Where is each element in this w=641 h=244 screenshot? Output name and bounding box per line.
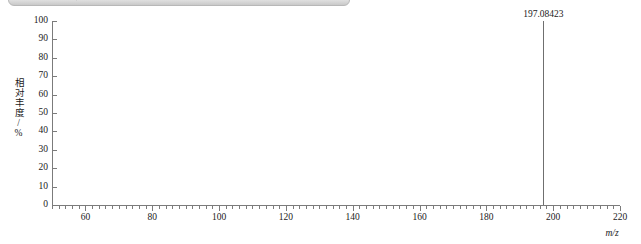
y-tick-30 bbox=[53, 150, 57, 151]
x-minor-tick-112 bbox=[259, 206, 260, 209]
x-minor-tick-196 bbox=[540, 206, 541, 209]
x-minor-tick-202 bbox=[560, 206, 561, 209]
x-minor-tick-176 bbox=[473, 206, 474, 209]
x-minor-tick-216 bbox=[607, 206, 608, 209]
x-minor-tick-212 bbox=[593, 206, 594, 209]
x-minor-tick-98 bbox=[212, 206, 213, 209]
x-minor-tick-162 bbox=[426, 206, 427, 209]
x-minor-tick-64 bbox=[99, 206, 100, 209]
x-minor-tick-186 bbox=[506, 206, 507, 209]
x-minor-tick-206 bbox=[573, 206, 574, 209]
x-minor-tick-90 bbox=[186, 206, 187, 209]
x-minor-tick-172 bbox=[460, 206, 461, 209]
x-minor-tick-144 bbox=[366, 206, 367, 209]
y-tick-label-30: 30 bbox=[20, 145, 48, 155]
x-minor-tick-102 bbox=[226, 206, 227, 209]
x-minor-tick-184 bbox=[500, 206, 501, 209]
x-minor-tick-124 bbox=[299, 206, 300, 209]
x-axis-title: m/z bbox=[605, 228, 618, 238]
y-tick-label-50: 50 bbox=[20, 108, 48, 118]
y-tick-10 bbox=[53, 187, 57, 188]
x-minor-tick-96 bbox=[206, 206, 207, 209]
x-minor-tick-84 bbox=[166, 206, 167, 209]
y-tick-label-wrap-20: 20 bbox=[18, 168, 52, 169]
x-minor-tick-204 bbox=[567, 206, 568, 209]
x-minor-tick-86 bbox=[172, 206, 173, 209]
x-minor-tick-158 bbox=[413, 206, 414, 209]
x-minor-tick-92 bbox=[192, 206, 193, 209]
x-major-tick-80 bbox=[152, 206, 153, 211]
y-tick-label-40: 40 bbox=[20, 126, 48, 136]
y-tick-label-wrap-0: 0 bbox=[18, 205, 52, 206]
y-tick-label-60: 60 bbox=[20, 90, 48, 100]
x-minor-tick-182 bbox=[493, 206, 494, 209]
x-minor-tick-142 bbox=[359, 206, 360, 209]
x-tick-label-160: 160 bbox=[412, 213, 426, 223]
y-tick-50 bbox=[53, 113, 57, 114]
y-tick-label-0: 0 bbox=[20, 200, 48, 210]
x-minor-tick-74 bbox=[132, 206, 133, 209]
y-tick-100 bbox=[53, 21, 57, 22]
x-minor-tick-174 bbox=[466, 206, 467, 209]
x-minor-tick-146 bbox=[373, 206, 374, 209]
x-minor-tick-72 bbox=[126, 206, 127, 209]
x-minor-tick-110 bbox=[252, 206, 253, 209]
x-minor-tick-148 bbox=[379, 206, 380, 209]
x-minor-tick-154 bbox=[399, 206, 400, 209]
y-tick-label-wrap-80: 80 bbox=[18, 58, 52, 59]
x-minor-tick-156 bbox=[406, 206, 407, 209]
x-major-tick-60 bbox=[85, 206, 86, 211]
x-tick-label-220: 220 bbox=[613, 213, 627, 223]
x-minor-tick-178 bbox=[480, 206, 481, 209]
y-tick-label-wrap-60: 60 bbox=[18, 95, 52, 96]
x-minor-tick-88 bbox=[179, 206, 180, 209]
x-minor-tick-128 bbox=[313, 206, 314, 209]
x-minor-tick-150 bbox=[386, 206, 387, 209]
x-minor-tick-52 bbox=[59, 206, 60, 209]
x-tick-label-60: 60 bbox=[81, 213, 91, 223]
x-minor-tick-198 bbox=[546, 206, 547, 209]
x-axis-line bbox=[52, 205, 620, 206]
x-minor-tick-54 bbox=[65, 206, 66, 209]
x-minor-tick-138 bbox=[346, 206, 347, 209]
x-tick-label-120: 120 bbox=[279, 213, 293, 223]
x-minor-tick-132 bbox=[326, 206, 327, 209]
x-minor-tick-214 bbox=[600, 206, 601, 209]
y-tick-label-wrap-100: 100 bbox=[18, 21, 52, 22]
y-tick-label-80: 80 bbox=[20, 53, 48, 63]
y-tick-label-wrap-50: 50 bbox=[18, 113, 52, 114]
x-minor-tick-168 bbox=[446, 206, 447, 209]
x-minor-tick-106 bbox=[239, 206, 240, 209]
y-tick-80 bbox=[53, 58, 57, 59]
y-tick-90 bbox=[53, 39, 57, 40]
x-major-tick-220 bbox=[620, 206, 621, 211]
y-tick-60 bbox=[53, 95, 57, 96]
x-minor-tick-116 bbox=[273, 206, 274, 209]
y-tick-label-wrap-40: 40 bbox=[18, 131, 52, 132]
x-minor-tick-58 bbox=[79, 206, 80, 209]
x-minor-tick-134 bbox=[333, 206, 334, 209]
x-minor-tick-68 bbox=[112, 206, 113, 209]
x-minor-tick-82 bbox=[159, 206, 160, 209]
y-tick-label-90: 90 bbox=[20, 34, 48, 44]
x-minor-tick-164 bbox=[433, 206, 434, 209]
x-tick-label-140: 140 bbox=[346, 213, 360, 223]
y-tick-label-wrap-10: 10 bbox=[18, 187, 52, 188]
x-tick-label-180: 180 bbox=[479, 213, 493, 223]
x-minor-tick-118 bbox=[279, 206, 280, 209]
x-minor-tick-126 bbox=[306, 206, 307, 209]
x-minor-tick-218 bbox=[613, 206, 614, 209]
x-major-tick-120 bbox=[286, 206, 287, 211]
y-tick-0 bbox=[53, 205, 57, 206]
x-major-tick-140 bbox=[353, 206, 354, 211]
x-minor-tick-66 bbox=[105, 206, 106, 209]
x-tick-label-200: 200 bbox=[546, 213, 560, 223]
x-minor-tick-76 bbox=[139, 206, 140, 209]
y-tick-label-100: 100 bbox=[20, 16, 48, 26]
x-minor-tick-166 bbox=[440, 206, 441, 209]
x-minor-tick-62 bbox=[92, 206, 93, 209]
x-major-tick-200 bbox=[553, 206, 554, 211]
x-major-tick-180 bbox=[486, 206, 487, 211]
x-minor-tick-108 bbox=[246, 206, 247, 209]
x-major-tick-100 bbox=[219, 206, 220, 211]
